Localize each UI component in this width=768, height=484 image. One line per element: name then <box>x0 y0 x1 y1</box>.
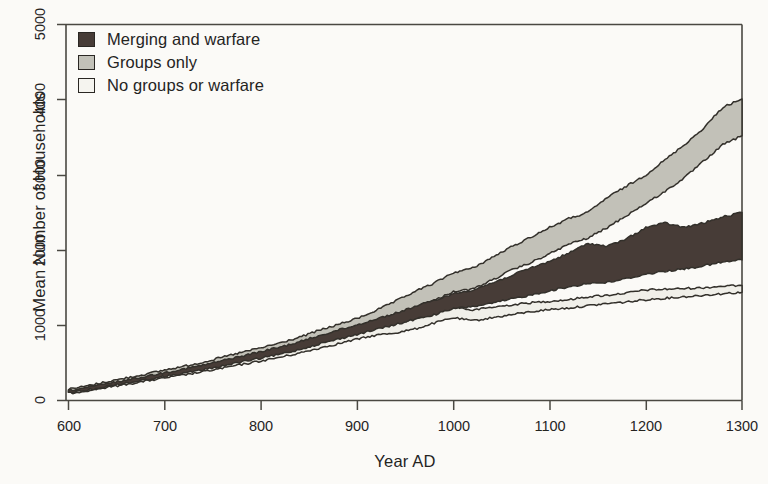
x-tick-label-800: 800 <box>235 418 287 434</box>
x-tick-label-1200: 1200 <box>615 418 677 434</box>
legend-swatch-icon-merging-and-warfare <box>78 32 95 47</box>
x-tick-label-600: 600 <box>43 418 95 434</box>
legend-item-no-groups-or-warfare: No groups or warfare <box>78 74 264 97</box>
y-axis-ticks <box>57 25 66 401</box>
legend-swatch-icon-groups-only <box>78 55 95 70</box>
x-axis-title: Year AD <box>68 452 742 471</box>
chart-figure: 0 1000 2000 3000 4000 5000 600 700 800 9… <box>0 0 768 484</box>
legend-label-no-groups-or-warfare: No groups or warfare <box>107 76 264 95</box>
x-tick-label-700: 700 <box>139 418 191 434</box>
x-tick-label-1100: 1100 <box>519 418 581 434</box>
x-axis-ticks <box>69 401 743 411</box>
x-tick-label-1000: 1000 <box>423 418 485 434</box>
legend-label-merging-and-warfare: Merging and warfare <box>107 30 260 49</box>
legend-label-groups-only: Groups only <box>107 53 197 72</box>
legend-item-merging-and-warfare: Merging and warfare <box>78 28 264 51</box>
x-tick-label-1300: 1300 <box>711 418 768 434</box>
legend-swatch-icon-no-groups-or-warfare <box>78 78 95 93</box>
x-tick-label-900: 900 <box>331 418 383 434</box>
legend-item-groups-only: Groups only <box>78 51 264 74</box>
y-axis-title: Mean Number of Households <box>26 0 52 412</box>
chart-legend: Merging and warfare Groups only No group… <box>78 28 264 97</box>
chart-series-bands <box>69 99 743 394</box>
